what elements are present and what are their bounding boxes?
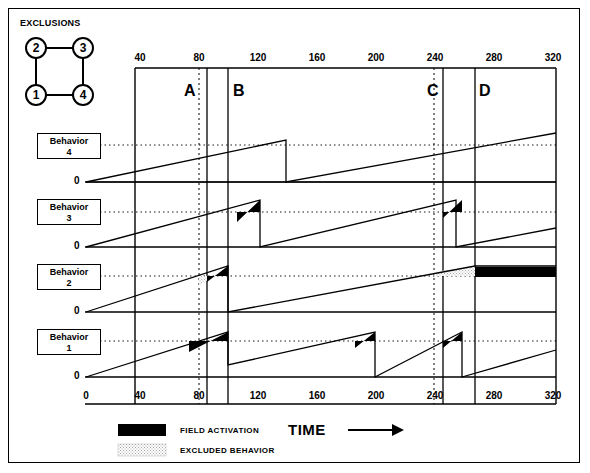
track-label-behavior-2[interactable]: Behavior 2	[37, 264, 101, 290]
zero-label-track-2: 0	[74, 305, 80, 316]
top-tick-80: 80	[184, 52, 214, 63]
zero-label-track-1: 0	[74, 370, 80, 381]
bottom-tick-40: 40	[125, 390, 155, 401]
track-label-behavior-3[interactable]: Behavior 3	[37, 199, 101, 225]
event-lines	[207, 68, 475, 404]
chart-canvas	[0, 0, 590, 473]
event-marker-b: B	[233, 82, 245, 100]
track-behavior-1	[85, 332, 556, 377]
top-tick-120: 120	[243, 52, 273, 63]
bottom-tick-240: 240	[420, 390, 450, 401]
exclusion-node-3[interactable]: 3	[76, 41, 90, 55]
legend-swatch-excluded	[118, 444, 166, 456]
zero-label-track-3: 0	[74, 240, 80, 251]
bottom-tick-0: 0	[71, 390, 101, 401]
top-tick-200: 200	[361, 52, 391, 63]
exclusion-node-2[interactable]: 2	[29, 41, 43, 55]
exclusion-node-4[interactable]: 4	[76, 88, 90, 102]
track-label-name-3: Behavior	[50, 202, 89, 212]
event-lines-dotted	[199, 68, 434, 404]
x-axis-title: TIME	[288, 421, 326, 438]
event-marker-c: C	[427, 82, 439, 100]
track-label-index-1: 1	[66, 343, 71, 353]
top-tick-320: 320	[538, 52, 568, 63]
track-behavior-4	[85, 133, 556, 182]
event-marker-d: D	[479, 82, 491, 100]
track-behavior-3	[85, 200, 556, 247]
bottom-tick-200: 200	[361, 390, 391, 401]
legend-swatch-activation	[118, 424, 166, 436]
top-tick-240: 240	[420, 52, 450, 63]
legend-label-excluded: EXCLUDED BEHAVIOR	[180, 446, 275, 455]
event-marker-a: A	[184, 82, 196, 100]
time-arrow-icon	[348, 424, 404, 436]
track-label-behavior-4[interactable]: Behavior 4	[37, 133, 101, 159]
bottom-tick-280: 280	[479, 390, 509, 401]
track-label-index-3: 3	[66, 213, 71, 223]
axis-lines	[85, 68, 556, 404]
bottom-tick-120: 120	[243, 390, 273, 401]
top-tick-280: 280	[479, 52, 509, 63]
exclusion-node-1[interactable]: 1	[29, 88, 43, 102]
legend-label-activation: FIELD ACTIVATION	[180, 426, 259, 435]
zero-label-track-4: 0	[74, 175, 80, 186]
top-tick-40: 40	[125, 52, 155, 63]
bottom-tick-160: 160	[302, 390, 332, 401]
track-label-behavior-1[interactable]: Behavior 1	[37, 329, 101, 355]
exclusions-title: EXCLUSIONS	[20, 18, 81, 28]
track-behavior-2	[85, 266, 556, 312]
track-label-name-1: Behavior	[50, 332, 89, 342]
top-tick-160: 160	[302, 52, 332, 63]
track-label-name-2: Behavior	[50, 267, 89, 277]
track-label-index-2: 2	[66, 278, 71, 288]
bottom-tick-80: 80	[184, 390, 214, 401]
bottom-tick-320: 320	[538, 390, 568, 401]
track-label-name-4: Behavior	[50, 136, 89, 146]
track-label-index-4: 4	[66, 147, 71, 157]
figure-root: EXCLUSIONS 2 3 1 4 40 80 120 160 200 240…	[0, 0, 590, 473]
